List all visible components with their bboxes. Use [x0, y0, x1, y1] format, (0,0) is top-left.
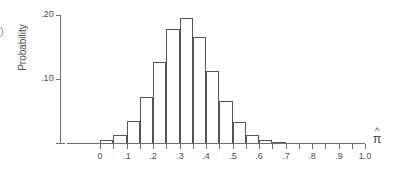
x-axis-tick [365, 144, 366, 149]
histogram-bar [180, 18, 193, 143]
x-axis-tick [312, 144, 313, 149]
histogram-bar [140, 97, 153, 143]
x-axis-tick [100, 144, 101, 149]
y-axis-tick [56, 15, 61, 16]
x-axis-tick-label: .4 [202, 151, 210, 161]
x-axis-minor-tick [246, 144, 247, 149]
x-axis-tick [286, 144, 287, 149]
histogram-bar [233, 122, 246, 143]
x-axis-tick [339, 144, 340, 149]
x-axis-tick-label: .7 [282, 151, 290, 161]
histogram-bar [166, 29, 179, 143]
histogram-bar [206, 71, 219, 143]
x-axis-minor-tick [325, 144, 326, 149]
histogram-bar [246, 135, 259, 143]
y-axis-tick-label: .20 [26, 9, 54, 19]
x-axis-tick [153, 144, 154, 149]
x-axis-tick-label: .2 [149, 151, 157, 161]
histogram-bar [127, 121, 140, 143]
x-axis-tick [180, 144, 181, 149]
x-axis-tick-label: .9 [335, 151, 343, 161]
histogram-figure: ) Probability ^ π .10.200.1.2.3.4.5.6.7.… [0, 0, 398, 171]
x-axis-tick [259, 144, 260, 149]
x-axis-minor-tick [272, 144, 273, 149]
y-axis-tick [56, 79, 61, 80]
x-axis-tick-label: .5 [229, 151, 237, 161]
x-axis-tick-label: .3 [176, 151, 184, 161]
x-axis-tick-label: 0 [97, 151, 102, 161]
histogram-bar [259, 140, 272, 143]
x-axis-minor-tick [113, 144, 114, 149]
x-axis-minor-tick [193, 144, 194, 149]
histogram-bar [193, 37, 206, 143]
x-axis-tick [233, 144, 234, 149]
x-axis-tick-label: .8 [308, 151, 316, 161]
x-axis-minor-tick [219, 144, 220, 149]
x-axis-tick [127, 144, 128, 149]
x-axis-tick-label: .6 [255, 151, 263, 161]
x-axis-minor-tick [299, 144, 300, 149]
x-axis-tick-label: 1.0 [359, 151, 372, 161]
histogram-bar [100, 140, 113, 143]
histogram-bar [113, 135, 126, 143]
x-axis-tick-label: .1 [123, 151, 131, 161]
y-axis-tick-label: .10 [26, 73, 54, 83]
x-axis-minor-tick [166, 144, 167, 149]
x-axis-minor-tick [140, 144, 141, 149]
x-axis-minor-tick [352, 144, 353, 149]
x-axis-tick [206, 144, 207, 149]
histogram-bar [153, 62, 166, 143]
histogram-bar [219, 101, 232, 143]
histogram-bar [272, 142, 285, 143]
